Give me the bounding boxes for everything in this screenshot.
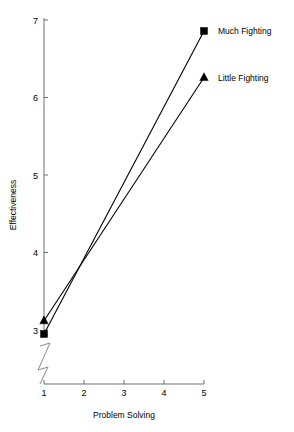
legend-label-little-fighting: Little Fighting: [218, 73, 269, 83]
y-tick-label-5: 5: [33, 171, 38, 181]
square-marker-much-fighting-end: [201, 28, 208, 35]
y-axis: 7 6 5 4 3 Effectiveness: [8, 16, 50, 385]
square-marker-much-fighting-start: [41, 331, 48, 338]
legend-label-much-fighting: Much Fighting: [218, 26, 272, 36]
y-axis-break-icon: [38, 343, 50, 384]
y-axis-title: Effectiveness: [8, 180, 18, 230]
series-much-fighting-line: [44, 31, 204, 334]
series-little-fighting: Little Fighting: [40, 73, 269, 324]
x-tick-label-5: 5: [201, 388, 206, 398]
y-tick-label-3: 3: [33, 326, 38, 336]
y-tick-label-4: 4: [33, 248, 38, 258]
x-tick-label-1: 1: [41, 388, 46, 398]
x-axis-title: Problem Solving: [93, 410, 155, 420]
x-tick-label-3: 3: [121, 388, 126, 398]
x-tick-label-2: 2: [81, 388, 86, 398]
y-tick-label-6: 6: [33, 93, 38, 103]
x-tick-label-4: 4: [161, 388, 166, 398]
series-little-fighting-line: [44, 78, 204, 321]
chart-container: 7 6 5 4 3 Effectiveness 1 2 3 4 5: [0, 0, 294, 432]
y-tick-label-7: 7: [33, 16, 38, 26]
line-chart: 7 6 5 4 3 Effectiveness 1 2 3 4 5: [0, 0, 294, 432]
triangle-marker-little-fighting-end: [200, 73, 208, 81]
x-axis: 1 2 3 4 5 Problem Solving: [41, 380, 206, 420]
